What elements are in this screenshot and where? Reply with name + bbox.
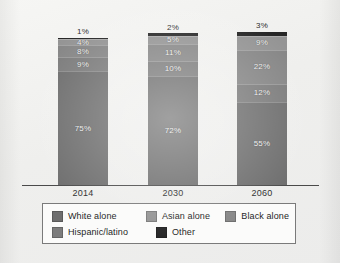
bar-segment-value-label: 11% (165, 49, 181, 57)
bar-segment-value-label: 12% (254, 89, 271, 97)
x-axis-line (22, 185, 319, 186)
x-tick-label-2030: 2030 (148, 188, 198, 198)
legend-swatch-icon (225, 211, 236, 222)
bar-segment-white-alone: 72% (148, 76, 198, 186)
legend-item-white-alone[interactable]: White alone (52, 211, 146, 222)
legend-swatch-icon (52, 211, 63, 222)
bar-segment-value-label: 2% (167, 24, 179, 32)
bar-segment-hispanic-latino: 10% (148, 61, 198, 76)
bar-segment-black-alone: 22% (237, 50, 287, 84)
bar-segment-hispanic-latino: 12% (237, 84, 287, 102)
legend-item-black-alone[interactable]: Black alone (225, 211, 289, 222)
legend-item-label: Hispanic/latino (68, 227, 128, 237)
plot-area: 1%4%8%9%75% 2%5%11%10%72% 3%9%22%12%55% (0, 0, 340, 186)
bar-segment-value-label: 75% (75, 125, 92, 133)
bar-segment-value-label: 9% (77, 61, 89, 69)
legend-item-label: Black alone (241, 211, 289, 221)
x-tick-label-2060: 2060 (237, 188, 287, 198)
bar-segment-value-label: 3% (256, 22, 268, 30)
legend-item-label: White alone (68, 211, 117, 221)
legend-item-hispanic-latino[interactable]: Hispanic/latino (52, 227, 156, 238)
x-axis-tick-labels: 2014 2030 2060 (0, 188, 340, 204)
legend-row: Hispanic/latinoOther (52, 224, 289, 240)
legend-item-other[interactable]: Other (156, 227, 244, 238)
legend-swatch-icon (146, 211, 157, 222)
bar-segment-white-alone: 75% (58, 71, 108, 186)
chart-legend: White aloneAsian aloneBlack alone Hispan… (42, 203, 296, 244)
bar-segment-black-alone: 11% (148, 44, 198, 61)
bar-segment-asian-alone: 5% (148, 36, 198, 44)
x-tick-label-2014: 2014 (58, 188, 108, 198)
bar-segment-value-label: 10% (165, 65, 182, 73)
bar-segment-white-alone: 55% (237, 102, 287, 186)
legend-swatch-icon (156, 227, 167, 238)
bar-segment-asian-alone: 9% (237, 36, 287, 50)
legend-item-label: Other (172, 227, 195, 237)
legend-row: White aloneAsian aloneBlack alone (52, 208, 289, 224)
stacked-bar-2030: 2%5%11%10%72% (148, 33, 198, 186)
chart-page: 1%4%8%9%75% 2%5%11%10%72% 3%9%22%12%55% … (0, 0, 340, 263)
bar-segment-value-label: 9% (256, 39, 268, 47)
bar-segment-value-label: 1% (77, 28, 89, 36)
legend-swatch-icon (52, 227, 63, 238)
stacked-bar-2014: 1%4%8%9%75% (58, 38, 108, 186)
bar-segment-value-label: 72% (165, 127, 182, 135)
stacked-bar-2060: 3%9%22%12%55% (237, 32, 287, 187)
bar-segment-value-label: 8% (77, 48, 89, 56)
bar-segment-black-alone: 8% (58, 45, 108, 57)
legend-item-label: Asian alone (162, 211, 210, 221)
bar-segment-hispanic-latino: 9% (58, 57, 108, 71)
bar-segment-value-label: 22% (254, 63, 271, 71)
bar-segment-value-label: 55% (254, 140, 271, 148)
legend-item-asian-alone[interactable]: Asian alone (146, 211, 225, 222)
